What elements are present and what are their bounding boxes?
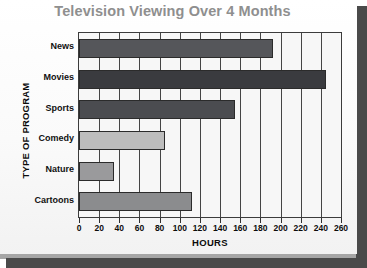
tick-label: 160	[233, 223, 247, 233]
bar-cartoons	[79, 192, 192, 211]
gridline	[321, 33, 322, 217]
chart-card: Television Viewing Over 4 Months TYPE OF…	[0, 0, 357, 254]
tick-label: 20	[94, 223, 103, 233]
bar-news	[79, 39, 273, 58]
x-axis-tick-labels: 020406080100120140160180200220240260	[78, 223, 342, 236]
bar-sports	[79, 100, 235, 119]
tick-label: 80	[155, 223, 164, 233]
category-label-comedy: Comedy	[20, 133, 74, 143]
x-axis-title: HOURS	[78, 237, 342, 248]
tick-label: 40	[115, 223, 124, 233]
tick-label: 200	[273, 223, 287, 233]
chart-title: Television Viewing Over 4 Months	[0, 3, 345, 19]
category-label-sports: Sports	[20, 103, 74, 113]
category-label-list: NewsMoviesSportsComedyNatureCartoons	[20, 32, 74, 218]
gridline	[281, 33, 282, 217]
tick-label: 220	[294, 223, 308, 233]
gridline	[180, 33, 181, 217]
category-label-cartoons: Cartoons	[20, 195, 74, 205]
tick-label: 260	[334, 223, 348, 233]
category-label-movies: Movies	[20, 72, 74, 82]
bar-movies	[79, 70, 326, 89]
category-label-nature: Nature	[20, 164, 74, 174]
tick-label: 0	[77, 223, 82, 233]
gridline	[240, 33, 241, 217]
gridline	[220, 33, 221, 217]
bar-comedy	[79, 131, 165, 150]
plot-area	[78, 32, 342, 218]
tick-label: 140	[213, 223, 227, 233]
tick-label: 120	[193, 223, 207, 233]
gridline	[341, 33, 342, 217]
card-shadow-bottom	[6, 258, 367, 268]
gridline	[139, 33, 140, 217]
category-label-news: News	[20, 41, 74, 51]
gridline	[160, 33, 161, 217]
tick-label: 180	[253, 223, 267, 233]
card-shadow-right	[356, 6, 367, 268]
tick-label: 240	[314, 223, 328, 233]
gridline	[99, 33, 100, 217]
chart-screenshot: Television Viewing Over 4 Months TYPE OF…	[0, 0, 367, 268]
tick-label: 100	[173, 223, 187, 233]
gridline	[119, 33, 120, 217]
gridline	[200, 33, 201, 217]
tick-label: 60	[135, 223, 144, 233]
gridline	[260, 33, 261, 217]
bar-nature	[79, 162, 114, 181]
gridline	[301, 33, 302, 217]
